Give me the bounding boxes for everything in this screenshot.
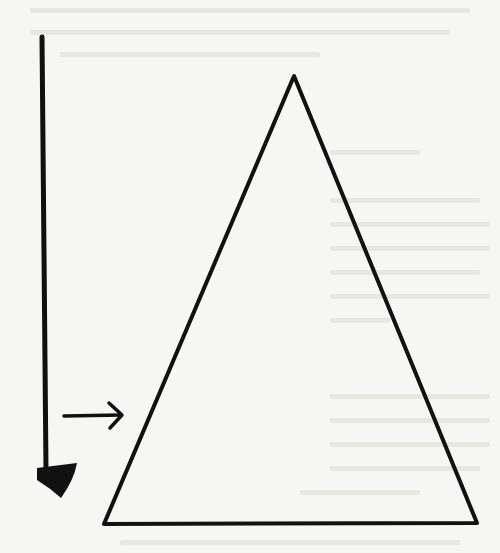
horizontal-right-arrow <box>64 403 122 428</box>
diagram <box>0 0 500 553</box>
vertical-down-arrow <box>37 37 77 498</box>
triangle <box>104 76 477 524</box>
arrowhead-icon <box>37 463 77 498</box>
scanned-page: Hand-drawn diagram: vertical downward ar… <box>0 0 500 553</box>
